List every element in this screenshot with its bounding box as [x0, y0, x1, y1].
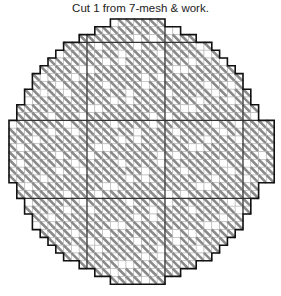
circle-needlepoint-chart [0, 0, 281, 296]
